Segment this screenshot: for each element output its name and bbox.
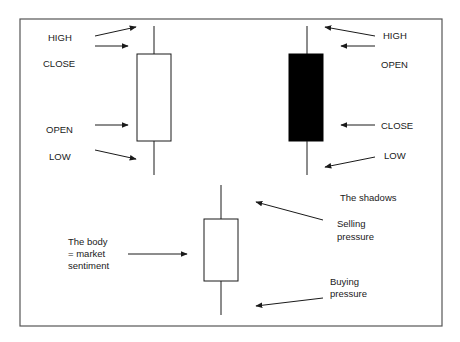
body-label-line3: sentiment (68, 260, 109, 272)
bullish-open-label: OPEN (46, 124, 73, 136)
bearish-close-label: CLOSE (381, 120, 413, 132)
bearish-arrows (325, 27, 375, 167)
bullish-low-label: LOW (49, 151, 71, 163)
selling-pressure-line1: Selling (337, 218, 366, 230)
bearish-high-label: HIGH (383, 30, 407, 42)
bullish-arrows (95, 27, 136, 159)
bearish-candle (289, 26, 323, 175)
bearish-open-label: OPEN (381, 59, 408, 71)
body-label-line2: = market (68, 248, 105, 260)
buying-pressure-line2: pressure (330, 288, 367, 300)
bullish-candle (137, 26, 171, 175)
bullish-high-label: HIGH (48, 32, 72, 44)
shadows-label: The shadows (340, 192, 397, 204)
anatomy-candle (204, 185, 238, 315)
bearish-low-label: LOW (384, 150, 406, 162)
buying-pressure-line1: Buying (330, 276, 359, 288)
body-label-line1: The body (68, 236, 108, 248)
candlestick-diagram (0, 0, 460, 342)
selling-pressure-line2: pressure (337, 231, 374, 243)
bullish-close-label: CLOSE (43, 58, 75, 70)
